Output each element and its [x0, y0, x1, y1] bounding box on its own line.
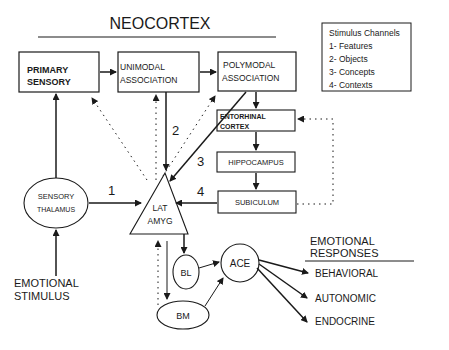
primary-sensory-node: PRIMARY SENSORY	[19, 52, 99, 92]
svg-text:HIPPOCAMPUS: HIPPOCAMPUS	[228, 158, 283, 167]
central-amygdala-node: ACE	[221, 244, 259, 282]
basomedial-node: BM	[157, 301, 209, 329]
legend-item-3: 3- Concepts	[329, 67, 375, 77]
response-behavioral: BEHAVIORAL	[315, 268, 379, 279]
emotional-stimulus-label: EMOTIONAL	[14, 277, 79, 289]
stimulus-channels-legend: Stimulus Channels 1- Features 2- Objects…	[322, 23, 411, 91]
svg-text:POLYMODAL: POLYMODAL	[223, 60, 276, 70]
emotional-responses-heading: EMOTIONAL	[310, 235, 375, 247]
emotion-circuit-diagram: NEOCORTEX Stimulus Channels 1- Features …	[0, 0, 449, 350]
svg-text:THALAMUS: THALAMUS	[37, 206, 75, 213]
svg-text:ASSOCIATION: ASSOCIATION	[120, 75, 177, 85]
hippocampus-node: HIPPOCAMPUS	[217, 152, 295, 172]
legend-item-4: 4- Contexts	[329, 80, 372, 90]
emotional-responses-heading-2: RESPONSES	[310, 247, 378, 259]
svg-text:CORTEX: CORTEX	[220, 123, 250, 130]
basolateral-node: BL	[173, 255, 199, 289]
channel-label-4: 4	[197, 184, 204, 199]
legend-heading: Stimulus Channels	[329, 28, 400, 38]
unimodal-association-node: UNIMODAL ASSOCIATION	[118, 52, 199, 92]
svg-text:LAT: LAT	[153, 203, 168, 213]
svg-text:BL: BL	[180, 268, 191, 278]
response-autonomic: AUTONOMIC	[315, 293, 376, 304]
polymodal-association-node: POLYMODAL ASSOCIATION	[218, 52, 296, 91]
subiculum-node: SUBICULUM	[218, 191, 296, 213]
neocortex-title: NEOCORTEX	[109, 15, 210, 32]
svg-text:SUBICULUM: SUBICULUM	[235, 198, 279, 207]
sensory-thalamus-node: SENSORY THALAMUS	[24, 178, 88, 228]
legend-item-2: 2- Objects	[329, 54, 368, 64]
emotional-stimulus-label-2: STIMULUS	[14, 290, 70, 302]
svg-text:SENSORY: SENSORY	[27, 77, 71, 87]
svg-text:BM: BM	[176, 311, 190, 321]
channel-label-1: 1	[108, 183, 115, 198]
svg-text:PRIMARY: PRIMARY	[27, 65, 68, 75]
svg-text:ASSOCIATION: ASSOCIATION	[222, 73, 279, 83]
svg-text:UNIMODAL: UNIMODAL	[120, 62, 165, 72]
legend-item-1: 1- Features	[329, 41, 372, 51]
response-endocrine: ENDOCRINE	[315, 316, 375, 327]
svg-text:AMYG: AMYG	[147, 216, 172, 226]
channel-label-2: 2	[172, 123, 179, 138]
svg-text:SENSORY: SENSORY	[38, 192, 75, 201]
channel-label-3: 3	[197, 154, 204, 169]
svg-text:ACE: ACE	[230, 258, 251, 269]
dotted-connections	[92, 95, 333, 305]
